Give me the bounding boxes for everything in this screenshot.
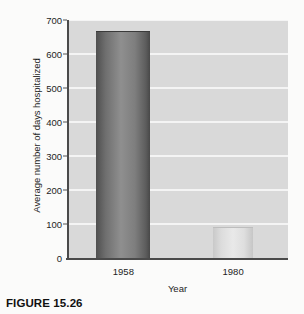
y-axis-tick-label: 100: [28, 219, 62, 230]
y-axis-tick-mark: [63, 122, 67, 123]
y-axis-tick-label: 500: [28, 83, 62, 94]
y-axis-tick-label: 600: [28, 49, 62, 60]
y-axis-tick-mark: [63, 190, 67, 191]
bar-1958: [96, 31, 150, 258]
figure-caption: FIGURE 15.26: [6, 297, 83, 309]
x-axis-line: [66, 258, 288, 260]
y-axis-tick-labels: 0100200300400500600700: [28, 14, 62, 262]
y-axis-tick-mark: [63, 20, 67, 21]
y-axis-tick-label: 200: [28, 185, 62, 196]
y-axis-line: [67, 20, 69, 259]
y-axis-tick-label: 0: [28, 253, 62, 264]
x-axis-title: Year: [67, 283, 288, 294]
x-axis-tick-label: 1958: [113, 266, 134, 277]
figure-container: Average number of days hospitalized 0100…: [0, 0, 304, 314]
y-axis-tick-mark: [63, 156, 67, 157]
y-axis-tick-mark: [63, 54, 67, 55]
y-axis-tick-label: 700: [28, 15, 62, 26]
plot-area: [69, 20, 289, 258]
y-axis-tick-label: 400: [28, 117, 62, 128]
x-axis-tick-label: 1980: [223, 266, 244, 277]
y-axis-tick-label: 300: [28, 151, 62, 162]
y-axis-tick-mark: [63, 224, 67, 225]
gridline: [69, 20, 289, 21]
y-axis-tick-mark: [63, 88, 67, 89]
bar-1980: [213, 227, 253, 258]
plot-frame: [67, 20, 288, 259]
